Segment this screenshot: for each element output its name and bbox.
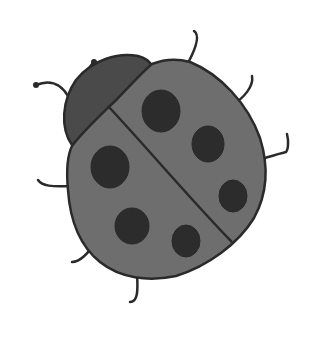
ladybug-illustration [0, 0, 312, 338]
spot-6 [172, 225, 200, 257]
antenna-tip-left [33, 82, 39, 88]
spot-4 [91, 146, 129, 188]
spot-3 [219, 180, 247, 212]
spot-2 [192, 126, 224, 162]
antenna-tip-top [91, 59, 97, 65]
spot-1 [142, 90, 180, 132]
leg-top [188, 31, 197, 63]
leg-left-middle [38, 180, 70, 186]
antenna-left [36, 83, 68, 96]
spot-5 [115, 208, 149, 244]
ladybug-drawing [0, 0, 312, 338]
